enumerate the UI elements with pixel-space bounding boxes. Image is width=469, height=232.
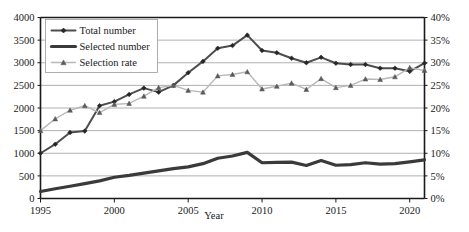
y-axis-right-ticks: 0%5%10%15%20%25%30%35%40% [425, 12, 451, 204]
y-axis-left-tick-label: 0 [29, 193, 34, 204]
y-axis-right-tick-label: 35% [431, 35, 451, 46]
y-axis-left-tick-label: 3500 [14, 35, 35, 46]
y-axis-right-tick-label: 30% [431, 57, 451, 68]
x-axis-tick-label: 2005 [178, 205, 199, 216]
x-axis-tick-label: 2015 [325, 205, 346, 216]
legend-item-label: Selected number [80, 41, 151, 52]
x-axis-tick-label: 2010 [252, 205, 273, 216]
y-axis-left-tick-label: 1000 [14, 148, 35, 159]
y-axis-right-tick-label: 15% [431, 125, 451, 136]
legend-item-label: Total number [80, 25, 137, 36]
y-axis-left-tick-label: 2500 [14, 80, 35, 91]
x-axis-tick-label: 1995 [30, 205, 51, 216]
y-axis-right-tick-label: 20% [431, 103, 451, 114]
x-axis-title: Year [204, 210, 224, 221]
y-axis-right-tick-label: 5% [431, 171, 445, 182]
y-axis-right-tick-label: 25% [431, 80, 451, 91]
y-axis-right-tick-label: 40% [431, 12, 451, 23]
legend-item-label: Selection rate [80, 57, 138, 68]
axis-titles: Year [204, 210, 224, 221]
y-axis-left-ticks: 05001000150020002500300035004000 [14, 12, 41, 204]
y-axis-left-tick-label: 4000 [14, 12, 35, 23]
chart-legend: Total numberSelected numberSelection rat… [46, 20, 158, 73]
y-axis-left-tick-label: 3000 [14, 57, 35, 68]
y-axis-right-tick-label: 10% [431, 148, 451, 159]
y-axis-left-tick-label: 1500 [14, 125, 35, 136]
y-axis-left-tick-label: 2000 [14, 103, 35, 114]
chart-container: 05001000150020002500300035004000 0%5%10%… [0, 0, 469, 232]
x-axis-ticks: 199520002005201020152020 [30, 199, 420, 216]
x-axis-tick-label: 2000 [104, 205, 125, 216]
y-axis-left-tick-label: 500 [19, 171, 35, 182]
x-axis-tick-label: 2020 [399, 205, 420, 216]
y-axis-right-tick-label: 0% [431, 193, 445, 204]
line-chart: 05001000150020002500300035004000 0%5%10%… [0, 0, 469, 232]
